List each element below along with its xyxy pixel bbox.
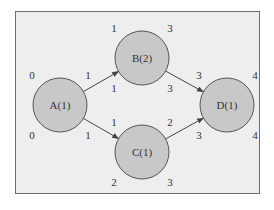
node-label-c: C(1): [132, 146, 152, 158]
time-lf-d: 4: [252, 129, 258, 141]
time-ls-d: 3: [196, 129, 202, 141]
time-ls-c: 2: [111, 176, 117, 188]
time-es-a: 0: [29, 69, 35, 81]
node-label-a: A(1): [50, 99, 71, 111]
time-ef-d: 4: [252, 69, 258, 81]
time-lf-a: 1: [85, 129, 91, 141]
time-es-d: 3: [196, 69, 202, 81]
time-ef-c: 2: [167, 116, 173, 128]
time-ef-a: 1: [85, 69, 91, 81]
node-label-d: D(1): [217, 99, 238, 111]
time-lf-c: 3: [167, 176, 173, 188]
time-ls-a: 0: [29, 129, 35, 141]
time-es-c: 1: [111, 116, 117, 128]
time-lf-b: 3: [167, 82, 173, 94]
time-ls-b: 1: [111, 82, 117, 94]
time-ef-b: 3: [167, 22, 173, 34]
time-es-b: 1: [111, 22, 117, 34]
node-label-b: B(2): [132, 52, 152, 64]
